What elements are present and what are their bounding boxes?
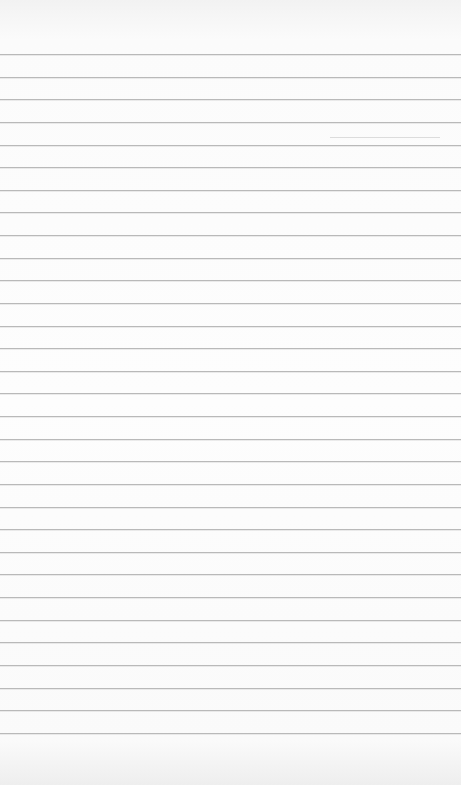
ruled-line: [0, 507, 461, 508]
ruled-line: [0, 552, 461, 553]
ruled-line: [0, 733, 461, 734]
ruled-line: [0, 303, 461, 304]
ruled-line: [0, 54, 461, 55]
lined-paper-sheet: [0, 0, 461, 785]
ruled-line: [0, 574, 461, 575]
ruled-line: [0, 484, 461, 485]
ruled-line: [0, 393, 461, 394]
ruled-line: [0, 665, 461, 666]
ruled-line: [0, 122, 461, 123]
ruled-line: [0, 99, 461, 100]
ruled-line: [0, 620, 461, 621]
ruled-line: [0, 326, 461, 327]
ruled-line: [0, 461, 461, 462]
ruled-line: [0, 371, 461, 372]
ruled-line: [0, 212, 461, 213]
ruled-line: [0, 439, 461, 440]
ruled-line: [0, 642, 461, 643]
ruled-line: [0, 280, 461, 281]
ruled-line: [0, 167, 461, 168]
ruled-line: [0, 416, 461, 417]
ruled-line: [0, 348, 461, 349]
ruled-line: [0, 77, 461, 78]
ruled-line: [0, 710, 461, 711]
faint-pencil-mark: [330, 137, 440, 138]
ruled-line: [0, 258, 461, 259]
ruled-line: [0, 190, 461, 191]
ruled-line: [0, 688, 461, 689]
ruled-line: [0, 145, 461, 146]
ruled-line: [0, 597, 461, 598]
ruled-line: [0, 235, 461, 236]
ruled-line: [0, 529, 461, 530]
